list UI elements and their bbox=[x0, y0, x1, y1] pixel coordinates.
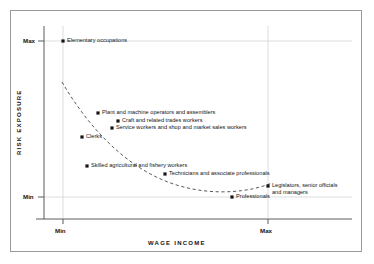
marker-technicians bbox=[163, 172, 166, 175]
plot-area bbox=[0, 0, 374, 264]
point-label-elementary-occupations: Elementary occupations bbox=[67, 37, 127, 44]
y-tick-label-min: Min bbox=[23, 193, 34, 200]
point-label-clerks: Clerks bbox=[86, 133, 102, 140]
point-label-technicians-and-associate-professionals: Technicians and associate professionals bbox=[169, 170, 270, 177]
marker-professionals bbox=[230, 195, 233, 198]
x-axis-title: WAGE INCOME bbox=[148, 240, 206, 246]
point-label-professionals: Professionals bbox=[236, 193, 270, 200]
marker-clerks bbox=[80, 135, 83, 138]
point-label-service-workers: Service workers and shop and market sale… bbox=[116, 124, 247, 131]
x-tick-label-min: Min bbox=[55, 227, 66, 234]
marker-legislators bbox=[266, 184, 269, 187]
y-axis-title: RISK EXPOSURE bbox=[16, 89, 22, 155]
y-tick-label-max: Max bbox=[23, 37, 35, 44]
marker-plant bbox=[96, 111, 99, 114]
marker-elementary bbox=[61, 39, 64, 42]
marker-service bbox=[110, 126, 113, 129]
point-label-legislators-senior-officials-and-managers: Legislators, senior officials and manage… bbox=[272, 182, 338, 196]
marker-craft bbox=[116, 119, 119, 122]
chart-page: Max Min Min Max RISK EXPOSURE WAGE INCOM… bbox=[0, 0, 374, 264]
x-tick-label-max: Max bbox=[260, 227, 272, 234]
marker-skilled-agricultural bbox=[85, 164, 88, 167]
point-label-skilled-agricultural-and-fishery-workers: Skilled agricultural and fishery workers bbox=[91, 162, 187, 169]
point-label-plant-and-machine-operators: Plant and machine operators and assemble… bbox=[102, 109, 215, 116]
